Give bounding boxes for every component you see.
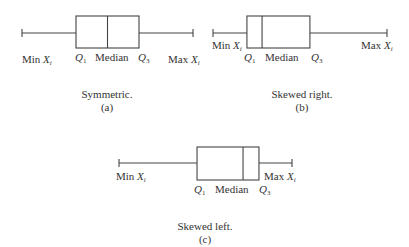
panel-a: Min Xi Max Xi Q1 Median Q3 Symmetric. (a…: [22, 16, 200, 114]
max-label: Max Xi: [361, 39, 393, 53]
box-plot-diagram: Min Xi Max Xi Q1 Median Q3 Symmetric. (a…: [0, 0, 409, 247]
panel-caption: Symmetric.: [81, 88, 132, 100]
panel-letter: (b): [296, 101, 309, 114]
max-label: Max Xi: [264, 170, 296, 184]
panel-caption: Skewed right.: [271, 88, 332, 100]
min-label: Min Xi: [22, 53, 52, 67]
panel-b: Min Xi Max Xi Q1 Median Q3 Skewed right.…: [212, 16, 393, 114]
q3-label: Q3: [311, 51, 323, 65]
median-label: Median: [215, 183, 249, 195]
panel-letter: (c): [199, 233, 212, 246]
panel-letter: (a): [101, 101, 114, 114]
iqr-box: [197, 147, 259, 180]
min-label: Min Xi: [116, 170, 146, 184]
q3-label: Q3: [259, 183, 271, 197]
min-label: Min Xi: [212, 39, 242, 53]
iqr-box: [247, 16, 310, 48]
panel-c: Min Xi Max Xi Q1 Median Q3 Skewed left. …: [116, 147, 296, 246]
q1-label: Q1: [75, 51, 87, 65]
median-label: Median: [265, 51, 299, 63]
median-label: Median: [95, 51, 129, 63]
panel-caption: Skewed left.: [178, 220, 233, 232]
q1-label: Q1: [244, 51, 256, 65]
max-label: Max Xi: [168, 53, 200, 67]
q1-label: Q1: [194, 183, 206, 197]
q3-label: Q3: [138, 51, 150, 65]
